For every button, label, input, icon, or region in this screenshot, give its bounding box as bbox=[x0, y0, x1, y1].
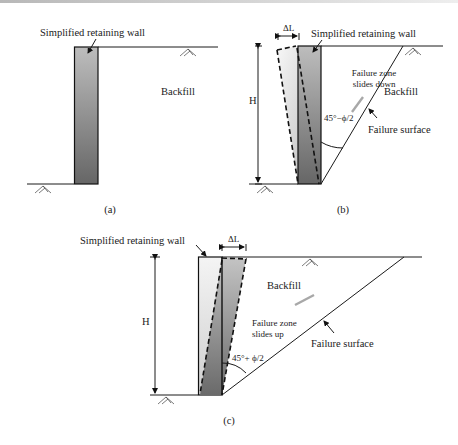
failure-zone-label-line1: Failure zone bbox=[252, 318, 297, 328]
height-label: H bbox=[142, 316, 150, 327]
backfill-label: Backfill bbox=[384, 86, 418, 97]
backfill-label: Backfill bbox=[267, 280, 301, 291]
ground-hatch-icon bbox=[257, 186, 273, 193]
failure-surface-line bbox=[222, 257, 404, 395]
panel-caption: (a) bbox=[104, 204, 116, 216]
failure-surface-label: Failure surface bbox=[311, 338, 374, 349]
wall-label: Simplified retaining wall bbox=[80, 235, 185, 246]
ground-hatch-icon bbox=[35, 186, 51, 193]
panel-caption: (c) bbox=[223, 415, 235, 427]
slide-direction-arrow bbox=[352, 97, 363, 112]
panel-caption: (b) bbox=[337, 204, 350, 216]
angle-label: 45°−ϕ/2 bbox=[324, 113, 353, 123]
failure-surface-pointer bbox=[324, 321, 334, 333]
retaining-wall-diagram: Simplified retaining wall Backfill (a) H… bbox=[0, 0, 458, 445]
angle-label: 45°+ ϕ/2 bbox=[232, 353, 264, 363]
failure-surface-label: Failure surface bbox=[368, 124, 431, 135]
wall-label: Simplified retaining wall bbox=[40, 27, 145, 38]
slide-direction-arrow bbox=[295, 295, 314, 305]
failure-zone-label-line2: slides up bbox=[252, 329, 284, 339]
backfill-label: Backfill bbox=[161, 86, 195, 97]
displacement-label: ΔL bbox=[283, 23, 294, 33]
panel-c: H ΔL Simplified retaining wall Backfill … bbox=[80, 234, 422, 427]
wall-label: Simplified retaining wall bbox=[311, 28, 416, 39]
panel-a: Simplified retaining wall Backfill (a) bbox=[27, 27, 218, 216]
angle-arc bbox=[321, 142, 343, 148]
displacement-label: ΔL bbox=[228, 234, 239, 244]
retaining-wall bbox=[298, 46, 321, 184]
ground-hatch-icon bbox=[158, 397, 174, 404]
panel-b: H ΔL Simplified retaining wall Failure z… bbox=[249, 23, 443, 216]
ground-hatch-icon bbox=[405, 48, 421, 55]
retaining-wall bbox=[75, 47, 99, 184]
height-label: H bbox=[249, 95, 257, 106]
failure-surface-pointer bbox=[369, 109, 377, 118]
wall-pointer-arrow bbox=[196, 245, 206, 256]
failure-zone-label-line1: Failure zone bbox=[352, 68, 397, 78]
ground-hatch-icon bbox=[180, 49, 196, 56]
ground-hatch-icon bbox=[302, 259, 318, 266]
